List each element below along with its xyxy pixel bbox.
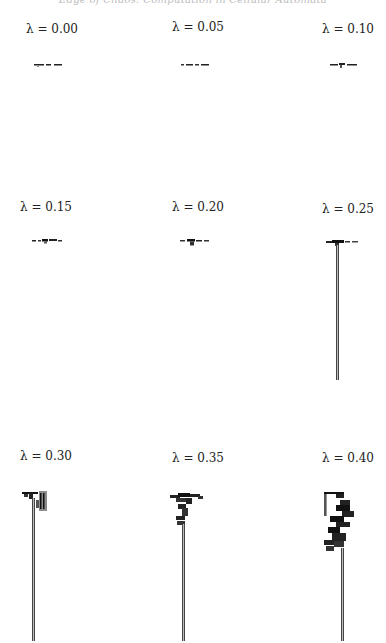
- ca-pattern-graphic: [168, 490, 208, 643]
- ca-panel-3: [32, 238, 64, 246]
- ca-pattern-graphic: [32, 238, 64, 246]
- panel-label-5: λ = 0.25: [322, 202, 374, 216]
- ca-pattern-graphic: [22, 490, 52, 643]
- panel-label-2: λ = 0.10: [322, 22, 374, 36]
- panel-label-3: λ = 0.15: [20, 200, 72, 214]
- ca-pattern-graphic: [34, 62, 64, 68]
- panel-label-4: λ = 0.20: [172, 200, 224, 214]
- ca-pattern-graphic: [180, 238, 212, 248]
- ca-pattern-graphic: [330, 62, 360, 70]
- ca-panel-4: [180, 238, 212, 248]
- panel-label-7: λ = 0.35: [172, 451, 224, 465]
- panel-label-8: λ = 0.40: [322, 451, 374, 465]
- ca-pattern-graphic: [326, 238, 360, 380]
- panel-label-6: λ = 0.30: [20, 449, 72, 463]
- ca-panel-6: [22, 490, 52, 643]
- ca-pattern-graphic: [181, 62, 211, 68]
- panel-label-0: λ = 0.00: [26, 22, 78, 36]
- ca-panel-8: [322, 490, 364, 643]
- ca-panel-0: [34, 62, 64, 68]
- ca-panel-2: [330, 62, 360, 70]
- ca-panel-5: [326, 238, 360, 380]
- running-head: Edge of Chaos: Computation in Cellular A…: [0, 0, 386, 5]
- ca-panel-1: [181, 62, 211, 68]
- panel-label-1: λ = 0.05: [172, 20, 224, 34]
- ca-pattern-graphic: [322, 490, 364, 643]
- ca-panel-7: [168, 490, 208, 643]
